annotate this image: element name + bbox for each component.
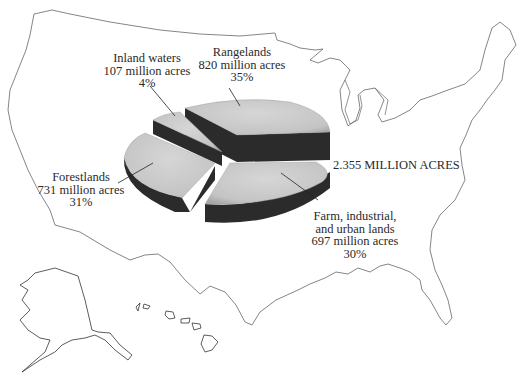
total-acres-label: 2.355 MILLION ACRES bbox=[333, 159, 460, 172]
label-rangelands-name: Rangelands bbox=[187, 46, 297, 59]
label-rangelands-pct: 35% bbox=[187, 71, 297, 84]
label-inland-pct: 4% bbox=[92, 77, 202, 90]
pie-chart bbox=[118, 86, 330, 223]
label-inland-waters: Inland waters 107 million acres 4% bbox=[92, 52, 202, 90]
label-rangelands: Rangelands 820 million acres 35% bbox=[187, 46, 297, 84]
alaska-outline bbox=[20, 268, 132, 372]
label-farm-name-1: Farm, industrial, bbox=[300, 210, 410, 223]
label-inland-name: Inland waters bbox=[92, 52, 202, 65]
label-farm-pct: 30% bbox=[300, 248, 410, 261]
label-forest-name: Forestlands bbox=[26, 171, 136, 184]
label-farm-amount: 697 million acres bbox=[300, 235, 410, 248]
hawaii-outline bbox=[136, 303, 218, 352]
label-forestlands: Forestlands 731 million acres 31% bbox=[26, 171, 136, 209]
label-farm-industrial-urban: Farm, industrial, and urban lands 697 mi… bbox=[300, 210, 410, 260]
great-lakes-outline bbox=[345, 80, 388, 124]
label-forest-pct: 31% bbox=[26, 196, 136, 209]
